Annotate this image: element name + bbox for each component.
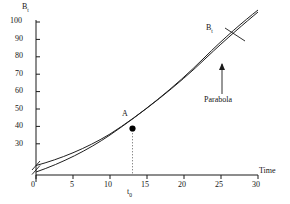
x-tick-label-15: 15 xyxy=(141,181,149,189)
x-tick-label-30: 30 xyxy=(252,181,260,189)
x-axis-title: Time xyxy=(259,167,276,175)
x-tick-label-25: 25 xyxy=(215,181,223,189)
y-tick-label-70: 70 xyxy=(15,70,23,78)
x-marker-label-t0-subscript: 0 xyxy=(129,192,132,198)
callout-leader-exponential xyxy=(225,28,245,41)
x-tick-label-10: 10 xyxy=(104,181,112,189)
x-tick-label-5: 5 xyxy=(70,181,74,189)
y-axis-ticks xyxy=(36,22,40,144)
series-label-parabola: Parabola xyxy=(204,96,232,104)
y-tick-label-90: 90 xyxy=(15,35,23,43)
point-a-marker xyxy=(129,125,135,131)
y-tick-label-50: 50 xyxy=(15,105,23,113)
callout-arrow-parabola xyxy=(219,63,225,94)
curve-exponential xyxy=(36,10,258,166)
y-origin-label: 0 xyxy=(31,181,35,189)
y-tick-label-60: 60 xyxy=(15,87,23,95)
y-tick-label-30: 30 xyxy=(15,140,23,148)
x-axis-ticks xyxy=(36,175,258,179)
series-label-exponential-subscript: t xyxy=(211,28,213,34)
series-label-exponential: Bt xyxy=(206,24,213,34)
x-tick-label-20: 20 xyxy=(178,181,186,189)
y-tick-label-40: 40 xyxy=(15,122,23,130)
x-marker-label-t0: t0 xyxy=(127,188,132,198)
curve-parabola xyxy=(36,12,258,172)
y-axis-title: Bt xyxy=(22,3,29,13)
chart-figure: 100 90 80 70 60 50 40 30 0 5 10 15 20 25… xyxy=(0,0,290,204)
point-a-label: A xyxy=(122,110,128,118)
y-axis-title-subscript: t xyxy=(27,7,29,13)
y-tick-label-80: 80 xyxy=(15,52,23,60)
chart-plot-area xyxy=(0,0,290,204)
y-tick-label-100: 100 xyxy=(10,17,22,25)
